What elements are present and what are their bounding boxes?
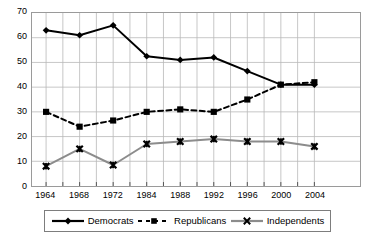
y-tick-label-70: 70 bbox=[0, 7, 27, 16]
legend-item-republicans[interactable]: Republicans bbox=[137, 216, 226, 226]
x-tick-label-1972: 1972 bbox=[103, 190, 123, 201]
legend-item-democrats[interactable]: Democrats bbox=[51, 216, 134, 226]
legend-swatch-democrats bbox=[51, 216, 85, 226]
x-tick-label-1964: 1964 bbox=[35, 190, 55, 201]
x-tick-label-1984: 1984 bbox=[136, 190, 156, 201]
legend-label-independents: Independents bbox=[267, 216, 325, 226]
series-lines bbox=[32, 13, 360, 186]
plot-area bbox=[31, 12, 361, 187]
x-tick-label-1968: 1968 bbox=[69, 190, 89, 201]
y-tick-label-40: 40 bbox=[0, 82, 27, 91]
y-tick-label-20: 20 bbox=[0, 132, 27, 141]
y-axis-tick-labels: 70 60 50 40 30 20 10 0 bbox=[0, 0, 29, 244]
y-tick-label-10: 10 bbox=[0, 157, 27, 166]
y-tick-label-60: 60 bbox=[0, 32, 27, 41]
legend-label-democrats: Democrats bbox=[88, 216, 134, 226]
y-tick-label-50: 50 bbox=[0, 57, 27, 66]
x-tick-label-2000: 2000 bbox=[271, 190, 291, 201]
legend-item-independents[interactable]: Independents bbox=[230, 216, 325, 226]
legend-label-republicans: Republicans bbox=[174, 216, 226, 226]
chart-legend: Democrats Republicans Independents bbox=[44, 210, 331, 232]
x-tick-label-1988: 1988 bbox=[170, 190, 190, 201]
legend-swatch-independents bbox=[230, 216, 264, 226]
chart-container: 70 60 50 40 30 20 10 0 19641968197219841… bbox=[0, 0, 371, 244]
x-tick-label-2004: 2004 bbox=[305, 190, 325, 201]
legend-swatch-republicans bbox=[137, 216, 171, 226]
x-tick-label-1992: 1992 bbox=[204, 190, 224, 201]
x-tick-label-1996: 1996 bbox=[238, 190, 258, 201]
y-tick-label-30: 30 bbox=[0, 107, 27, 116]
x-axis-tick-labels: 196419681972198419881992199620002004 bbox=[0, 190, 371, 204]
